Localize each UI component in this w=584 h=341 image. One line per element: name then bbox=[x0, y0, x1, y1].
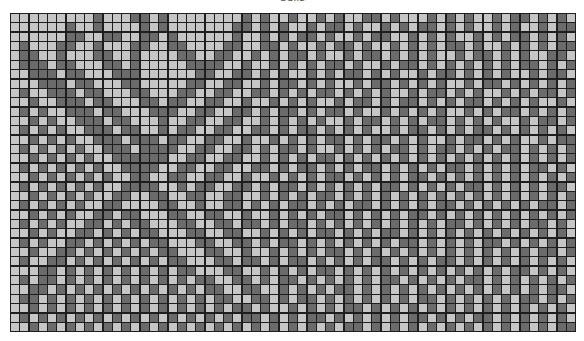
cell-dark bbox=[85, 154, 93, 162]
cell-dark bbox=[85, 304, 93, 312]
cell-light bbox=[372, 126, 380, 134]
cell-light bbox=[67, 183, 75, 191]
cell-light bbox=[261, 201, 269, 209]
cell-light bbox=[30, 164, 38, 172]
cell-light bbox=[317, 33, 325, 41]
cell-dark bbox=[39, 80, 47, 88]
cell-light bbox=[511, 314, 519, 322]
cell-dark bbox=[400, 239, 408, 247]
cell-dark bbox=[215, 89, 223, 97]
cell-dark bbox=[122, 126, 130, 134]
cell-light bbox=[206, 229, 214, 237]
cell-dark bbox=[178, 89, 186, 97]
cell-dark bbox=[224, 126, 232, 134]
cell-dark bbox=[224, 164, 232, 172]
cell-light bbox=[196, 257, 204, 265]
cell-light bbox=[85, 14, 93, 22]
cell-light bbox=[326, 14, 334, 22]
cell-dark bbox=[474, 211, 482, 219]
cell-dark bbox=[280, 267, 288, 275]
cell-light bbox=[539, 295, 547, 303]
cell-light bbox=[558, 154, 566, 162]
cell-light bbox=[243, 323, 251, 331]
cell-light bbox=[521, 239, 529, 247]
cell-dark bbox=[548, 51, 556, 59]
cell-dark bbox=[530, 61, 538, 69]
cell-dark bbox=[465, 70, 473, 78]
cell-light bbox=[567, 314, 575, 322]
cell-light bbox=[122, 239, 130, 247]
cell-dark bbox=[382, 183, 390, 191]
cell-light bbox=[76, 267, 84, 275]
cell-dark bbox=[159, 201, 167, 209]
cell-dark bbox=[428, 42, 436, 50]
cell-dark bbox=[530, 70, 538, 78]
cell-light bbox=[113, 295, 121, 303]
cell-light bbox=[141, 70, 149, 78]
cell-light bbox=[11, 276, 19, 284]
cell-dark bbox=[363, 239, 371, 247]
cell-dark bbox=[548, 61, 556, 69]
cell-light bbox=[94, 248, 102, 256]
cell-dark bbox=[206, 183, 214, 191]
cell-dark bbox=[345, 323, 353, 331]
cell-light bbox=[30, 314, 38, 322]
cell-light bbox=[280, 323, 288, 331]
cell-light bbox=[465, 211, 473, 219]
cell-light bbox=[428, 108, 436, 116]
cell-light bbox=[456, 61, 464, 69]
cell-dark bbox=[178, 136, 186, 144]
cell-dark bbox=[354, 257, 362, 265]
cell-light bbox=[335, 164, 343, 172]
cell-dark bbox=[48, 154, 56, 162]
cell-dark bbox=[289, 14, 297, 22]
cell-dark bbox=[493, 192, 501, 200]
cell-light bbox=[85, 164, 93, 172]
cell-dark bbox=[94, 183, 102, 191]
cell-dark bbox=[196, 229, 204, 237]
cell-light bbox=[354, 117, 362, 125]
cell-dark bbox=[206, 211, 214, 219]
cell-dark bbox=[335, 136, 343, 144]
cell-light bbox=[354, 267, 362, 275]
cell-dark bbox=[502, 314, 510, 322]
cell-dark bbox=[30, 154, 38, 162]
cell-light bbox=[76, 136, 84, 144]
cell-light bbox=[270, 80, 278, 88]
cell-light bbox=[215, 201, 223, 209]
cell-dark bbox=[372, 248, 380, 256]
cell-dark bbox=[372, 323, 380, 331]
cell-dark bbox=[243, 211, 251, 219]
cell-dark bbox=[39, 239, 47, 247]
cell-dark bbox=[39, 164, 47, 172]
cell-dark bbox=[502, 257, 510, 265]
cell-light bbox=[474, 295, 482, 303]
cell-light bbox=[539, 239, 547, 247]
cell-light bbox=[243, 126, 251, 134]
cell-dark bbox=[298, 89, 306, 97]
cell-light bbox=[113, 267, 121, 275]
cell-light bbox=[308, 220, 316, 228]
cell-dark bbox=[122, 117, 130, 125]
cell-dark bbox=[317, 285, 325, 293]
cell-dark bbox=[215, 126, 223, 134]
cell-dark bbox=[169, 33, 177, 41]
cell-light bbox=[215, 229, 223, 237]
cell-light bbox=[233, 126, 241, 134]
cell-light bbox=[289, 117, 297, 125]
cell-dark bbox=[419, 108, 427, 116]
cell-dark bbox=[382, 23, 390, 31]
cell-light bbox=[298, 14, 306, 22]
cell-light bbox=[400, 211, 408, 219]
cell-dark bbox=[437, 126, 445, 134]
cell-dark bbox=[502, 89, 510, 97]
cell-dark bbox=[252, 201, 260, 209]
cell-light bbox=[456, 33, 464, 41]
cell-dark bbox=[104, 33, 112, 41]
cell-dark bbox=[252, 220, 260, 228]
cell-light bbox=[57, 267, 65, 275]
cell-light bbox=[363, 314, 371, 322]
cell-dark bbox=[521, 314, 529, 322]
cell-dark bbox=[548, 117, 556, 125]
cell-light bbox=[76, 211, 84, 219]
